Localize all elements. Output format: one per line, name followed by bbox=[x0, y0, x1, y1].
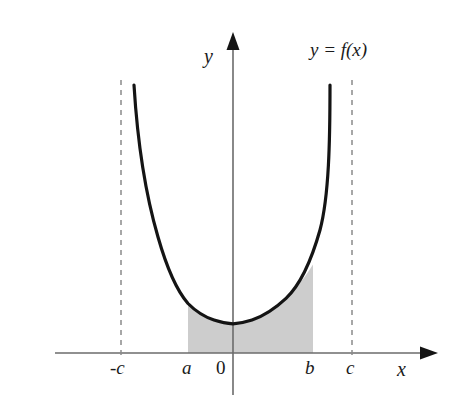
tick-label-c: c bbox=[346, 358, 354, 377]
y-axis-label: y bbox=[204, 46, 213, 66]
y-axis-arrowhead bbox=[227, 32, 240, 50]
x-axis-label: x bbox=[397, 359, 406, 379]
graph-canvas bbox=[0, 0, 455, 407]
shaded-area-under-curve bbox=[188, 265, 313, 353]
function-label: y = f(x) bbox=[310, 40, 367, 59]
tick-label-origin: 0 bbox=[216, 358, 226, 377]
function-graph-figure: y = f(x) y x -c a 0 b c bbox=[0, 0, 455, 407]
tick-label-b: b bbox=[305, 358, 315, 377]
x-axis-arrowhead bbox=[420, 347, 438, 360]
tick-label-a: a bbox=[182, 358, 192, 377]
tick-label-neg-c: -c bbox=[110, 358, 125, 377]
